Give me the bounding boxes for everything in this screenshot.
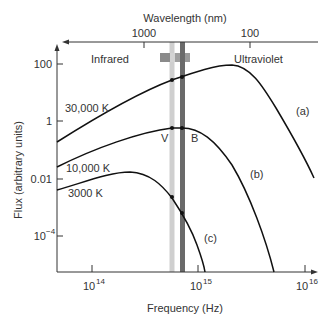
y-tick-1: 1 [46, 115, 52, 127]
wavelength-axis-arrow [62, 40, 69, 45]
tag-a: (a) [296, 105, 309, 117]
y-tick-0-01: 0.01 [31, 173, 52, 185]
y-tick-1e-4-exp: −4 [46, 227, 56, 236]
x-tick-1e16: 10 [296, 280, 308, 292]
wavelength-axis-title: Wavelength (nm) [143, 12, 226, 24]
filter-bands [160, 42, 190, 272]
x-axis-arrow [311, 270, 318, 275]
color-swatch-right [185, 53, 190, 62]
x-tick-1e16-exp: 16 [309, 277, 318, 286]
color-swatch-mid2 [175, 53, 180, 62]
color-swatch-left [160, 53, 170, 62]
y-axis-title: Flux (arbitrary units) [12, 121, 24, 219]
x-axis-title: Frequency (Hz) [147, 302, 223, 314]
color-swatch-mid [170, 53, 175, 62]
x-tick-1e14-exp: 14 [96, 277, 105, 286]
top-tick-1000: 1000 [132, 27, 156, 39]
band-label-v: V [161, 132, 169, 144]
band-label-b: B [191, 132, 198, 144]
top-tick-100: 100 [241, 27, 259, 39]
tag-b: (b) [250, 168, 263, 180]
label-3000k: 3000 K [68, 187, 104, 199]
x-tick-1e15: 10 [190, 280, 202, 292]
v-band [170, 42, 175, 272]
curve-10000k [57, 128, 274, 272]
blackbody-chart: Wavelength (nm) 1000 100 Infrared Ultrav… [0, 0, 331, 319]
y-tick-100: 100 [34, 58, 52, 70]
y-axis-arrow [55, 44, 60, 51]
x-tick-1e14: 10 [83, 280, 95, 292]
y-tick-1e-4: 10 [34, 230, 46, 242]
label-30000k: 30,000 K [65, 102, 110, 114]
x-tick-1e15-exp: 15 [203, 277, 212, 286]
region-ultraviolet: Ultraviolet [234, 53, 283, 65]
region-infrared: Infrared [91, 53, 129, 65]
label-10000k: 10,000 K [66, 162, 111, 174]
tag-c: (c) [204, 232, 217, 244]
